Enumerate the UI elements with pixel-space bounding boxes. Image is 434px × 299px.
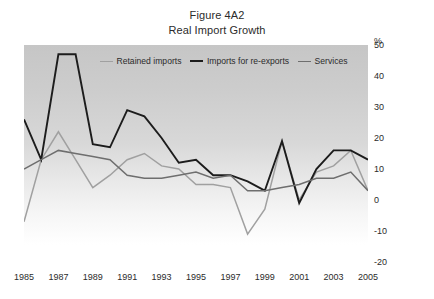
- x-axis-tick-label: 1985: [14, 272, 34, 282]
- series-line: [24, 54, 368, 203]
- legend-item-label: Services: [315, 56, 348, 66]
- x-axis-tick-label: 1991: [117, 272, 137, 282]
- y-axis-tick-label: 20: [374, 133, 384, 143]
- x-axis-tick-label: 1999: [255, 272, 275, 282]
- x-axis-tick-label: 2005: [358, 272, 378, 282]
- y-axis-tick-label: 10: [374, 164, 384, 174]
- line-chart-svg: [24, 45, 368, 262]
- y-axis-tick-label: -10: [374, 226, 387, 236]
- legend-item-label: Retained imports: [117, 56, 182, 66]
- legend-line-icon: [190, 60, 203, 62]
- legend-line-icon: [298, 61, 311, 62]
- y-axis-tick-label: 40: [374, 71, 384, 81]
- legend-item[interactable]: Services: [298, 56, 347, 66]
- x-axis-tick-label: 1993: [152, 272, 172, 282]
- y-axis-tick-label: 0: [374, 195, 379, 205]
- y-axis-tick-label: 50: [374, 40, 384, 50]
- x-axis-tick-label: 2003: [324, 272, 344, 282]
- figure-subtitle-line-2: Real Import Growth: [0, 23, 434, 38]
- figure-title: Figure 4A2 Real Import Growth: [0, 8, 434, 38]
- series-line: [24, 132, 368, 234]
- x-axis-tick-label: 1995: [186, 272, 206, 282]
- chart-legend: Retained importsImports for re-exportsSe…: [100, 56, 348, 66]
- x-axis-tick-label: 1997: [220, 272, 240, 282]
- figure-title-line-1: Figure 4A2: [0, 8, 434, 23]
- figure-container: Figure 4A2 Real Import Growth % Retained…: [0, 0, 434, 299]
- y-axis-tick-label: 30: [374, 102, 384, 112]
- x-axis-tick-label: 1987: [48, 272, 68, 282]
- legend-item-label: Imports for re-exports: [207, 56, 289, 66]
- x-axis-tick-labels: 1985198719891991199319951997199920012003…: [24, 272, 368, 288]
- x-axis-tick-label: 1989: [83, 272, 103, 282]
- y-axis-tick-label: -20: [374, 257, 387, 267]
- y-axis-tick-labels: 50403020100-10-20: [374, 45, 414, 263]
- legend-line-icon: [100, 61, 113, 62]
- x-axis-tick-label: 2001: [289, 272, 309, 282]
- plot-area: [24, 45, 368, 262]
- legend-item[interactable]: Imports for re-exports: [190, 56, 289, 66]
- legend-item[interactable]: Retained imports: [100, 56, 181, 66]
